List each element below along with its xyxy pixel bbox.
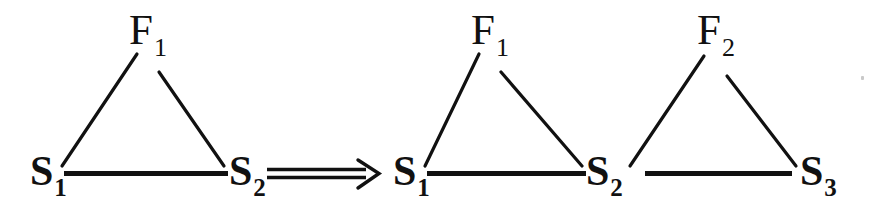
figure-canvas: F1 S1 S2 F1 F2 S1 S2 S3	[0, 0, 885, 213]
node-label-left-f1: F1	[129, 8, 166, 51]
edge-left-f1-s2	[159, 72, 224, 166]
node-subscript: 2	[610, 174, 623, 201]
node-label-right-s3: S3	[800, 150, 836, 192]
node-letter: S	[30, 148, 53, 194]
node-label-right-f1: F1	[471, 8, 508, 51]
arrow-head	[358, 160, 379, 188]
node-letter: S	[229, 148, 252, 194]
node-letter: S	[393, 148, 416, 194]
rewrite-arrow-glyph	[267, 160, 379, 188]
edge-right-f2-s3	[727, 76, 796, 166]
node-label-left-s1: S1	[30, 150, 66, 192]
node-letter: F	[697, 6, 721, 53]
node-label-right-s1: S1	[393, 150, 429, 192]
node-label-left-s2: S2	[229, 150, 265, 192]
right-graph-triangle-2-edges	[630, 56, 796, 174]
node-subscript: 1	[417, 174, 430, 201]
node-subscript: 2	[722, 33, 735, 62]
right-graph-triangle-1-edges	[425, 54, 586, 174]
left-graph-edges	[62, 54, 228, 174]
edge-right-s2-f2	[630, 56, 704, 166]
edge-right-f1-s2	[501, 72, 582, 166]
scan-speck-artifact	[861, 76, 864, 80]
node-subscript: 1	[54, 174, 67, 201]
node-subscript: 2	[253, 174, 266, 201]
node-letter: F	[129, 6, 153, 53]
node-letter: S	[586, 148, 609, 194]
edge-right-s1-f1	[425, 54, 479, 166]
edge-left-s1-f1	[62, 54, 137, 166]
node-subscript: 1	[496, 33, 509, 62]
node-label-right-f2: F2	[697, 8, 734, 51]
node-letter: S	[800, 148, 823, 194]
node-label-right-s2: S2	[586, 150, 622, 192]
node-subscript: 1	[154, 33, 167, 62]
node-subscript: 3	[824, 174, 837, 201]
node-letter: F	[471, 6, 495, 53]
